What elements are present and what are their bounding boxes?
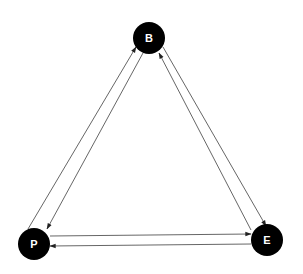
nodes-layer: BPE: [18, 22, 283, 260]
edge-e-to-b: [159, 53, 251, 230]
node-e: E: [251, 224, 283, 256]
node-label: B: [145, 32, 153, 44]
edge-p-to-b: [28, 47, 136, 229]
node-b: B: [133, 22, 165, 54]
node-p: P: [18, 228, 50, 260]
node-label: P: [30, 238, 37, 250]
edge-p-to-e: [50, 234, 251, 236]
edges-layer: [28, 47, 266, 246]
edge-b-to-e: [163, 47, 266, 226]
node-label: E: [263, 234, 270, 246]
edge-e-to-p: [50, 244, 251, 246]
graph-diagram: BPE: [0, 0, 303, 274]
edge-b-to-p: [47, 53, 143, 229]
